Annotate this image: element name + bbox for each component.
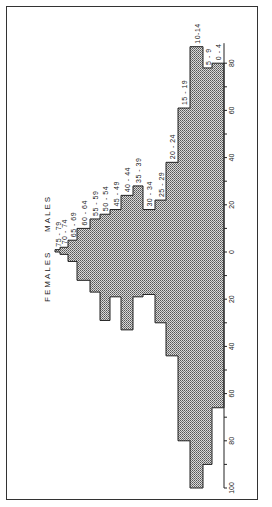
age-group-label: 45 - 49 xyxy=(113,181,120,206)
age-group-label: 30 - 34 xyxy=(146,181,153,206)
axis-tick-label: 80 xyxy=(228,437,235,445)
population-pyramid-chart: 80604020020406080100 0 - 45 - 910-1415 -… xyxy=(0,0,272,507)
age-group-label: 75 - 79 xyxy=(55,221,62,246)
axis-tick-label: 0 xyxy=(228,250,235,254)
males-label: MALES xyxy=(43,195,52,232)
age-group-label: 15 - 19 xyxy=(181,80,188,105)
age-group-label: 10-14 xyxy=(194,23,201,43)
axis-tick-label: 60 xyxy=(228,390,235,398)
axis-tick-label: 40 xyxy=(228,342,235,350)
value-axis: 80604020020406080100 xyxy=(224,43,235,494)
axis-tick-label: 20 xyxy=(228,201,235,209)
age-group-label: 5 - 9 xyxy=(205,48,212,65)
pyramid-bars xyxy=(55,47,224,488)
age-group-label: 65 - 69 xyxy=(70,212,77,237)
age-group-label: 60 - 64 xyxy=(81,200,88,225)
axis-tick-label: 40 xyxy=(228,154,235,162)
age-group-label: 40 - 44 xyxy=(124,167,131,192)
axis-tick-label: 80 xyxy=(228,59,235,67)
females-label: FEMALES xyxy=(43,251,52,302)
age-group-label: 70 - 74 xyxy=(61,219,68,244)
age-group-label: 55 - 59 xyxy=(92,191,99,216)
age-group-label: 0 - 4 xyxy=(215,44,222,61)
pyramid-shape xyxy=(55,47,224,488)
age-group-label: 25 - 29 xyxy=(158,172,165,197)
age-group-label: 20 - 24 xyxy=(169,134,176,159)
age-group-label: 35 - 39 xyxy=(135,158,142,183)
axis-tick-label: 60 xyxy=(228,106,235,114)
age-group-label: 50 - 54 xyxy=(102,186,109,211)
axis-tick-label: 20 xyxy=(228,295,235,303)
axis-tick-label: 100 xyxy=(228,482,235,494)
